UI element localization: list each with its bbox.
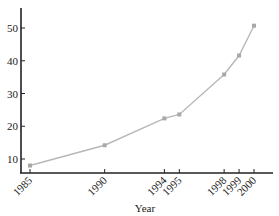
x-axis-label: Year <box>135 202 156 214</box>
series-line <box>30 26 254 166</box>
y-tick-label: 50 <box>7 22 19 34</box>
y-tick-label: 10 <box>7 153 19 165</box>
y-tick-label: 20 <box>7 120 19 132</box>
line-chart: 1020304050 1985199019941995199819992000 … <box>0 0 279 216</box>
data-point-marker <box>237 54 241 58</box>
data-series <box>28 24 256 168</box>
x-tick-label: 1990 <box>85 174 109 198</box>
data-point-marker <box>252 24 256 28</box>
data-point-marker <box>28 164 32 168</box>
x-tick-label: 1985 <box>10 174 34 198</box>
y-axis: 1020304050 <box>7 8 25 173</box>
data-point-marker <box>103 143 107 147</box>
data-point-marker <box>162 116 166 120</box>
x-axis: 1985199019941995199819992000 <box>10 169 273 198</box>
y-tick-label: 40 <box>7 55 19 67</box>
data-point-marker <box>177 112 181 116</box>
data-point-marker <box>222 73 226 77</box>
y-tick-label: 30 <box>7 88 19 100</box>
